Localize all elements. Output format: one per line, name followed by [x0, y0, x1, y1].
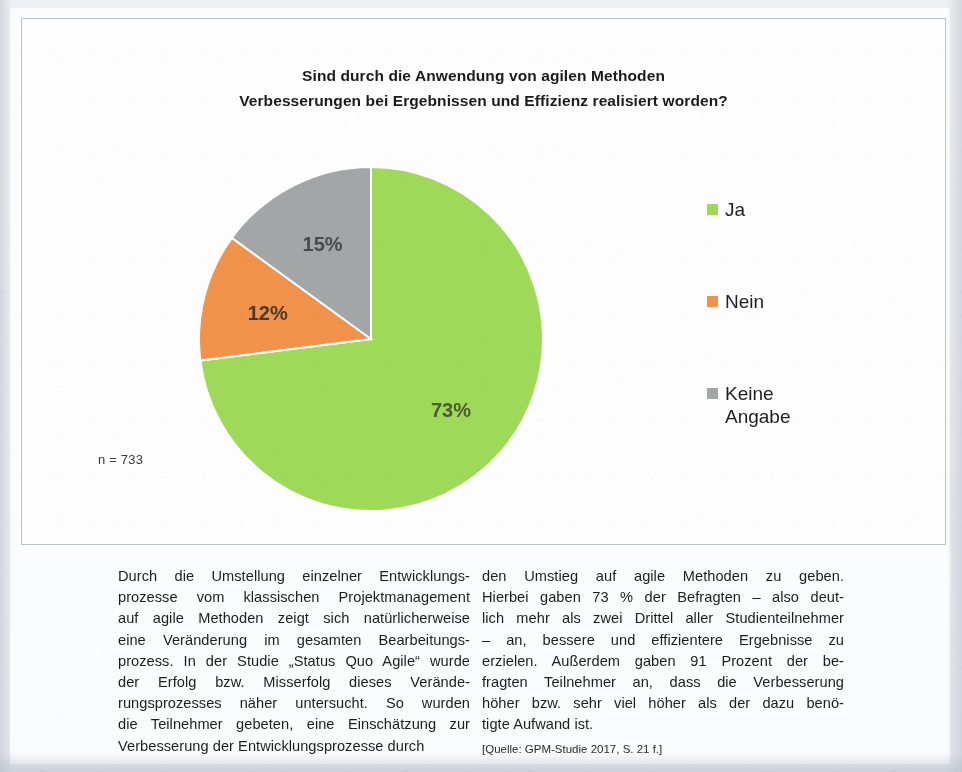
pie-data-label-nein: 12%: [248, 302, 288, 324]
legend-item-keine-angabe[interactable]: Keine Angabe: [707, 382, 791, 428]
body-line: die Teilnehmer gebeten, eine Einschätzun…: [118, 714, 470, 735]
chart-title-line-1: Sind durch die Anwendung von agilen Meth…: [21, 63, 946, 88]
body-column-right: den Umstieg auf agile Methoden zu geben.…: [482, 566, 844, 756]
pie-data-label-keine-angabe: 15%: [303, 233, 343, 255]
legend-swatch-ja-icon: [707, 204, 718, 215]
pie-chart: 73%12%15%: [196, 164, 546, 514]
pie-data-label-ja: 73%: [431, 399, 471, 421]
legend-label-keine-angabe: Keine Angabe: [725, 382, 791, 428]
body-line: höher bzw. sehr viel höher als der dazu …: [482, 693, 844, 714]
body-paragraph-right: den Umstieg auf agile Methoden zu geben.…: [482, 566, 844, 736]
body-line: erzielen. Außerdem gaben 91 Prozent der …: [482, 651, 844, 672]
body-line: prozesse vom klassischen Projektmanageme…: [118, 587, 470, 608]
body-line: lich mehr als zwei Drittel aller Studien…: [482, 608, 844, 629]
pie-chart-svg: 73%12%15%: [196, 164, 546, 514]
source-citation: [Quelle: GPM-Studie 2017, S. 21 f.]: [482, 742, 844, 756]
body-paragraph-left: Durch die Umstellung einzelner Entwicklu…: [118, 566, 470, 757]
legend-label-ja: Ja: [725, 198, 745, 221]
paper-sheet: Sind durch die Anwendung von agilen Meth…: [10, 8, 950, 764]
body-line: Durch die Umstellung einzelner Entwicklu…: [118, 566, 470, 587]
legend-item-nein[interactable]: Nein: [707, 290, 764, 313]
legend-swatch-keine-angabe-icon: [707, 388, 718, 399]
body-line: der Erfolg bzw. Misserfolg dieses Veränd…: [118, 672, 470, 693]
body-line: Verbesserung der Entwicklungsprozesse du…: [118, 736, 470, 757]
body-line: auf agile Methoden zeigt sich natürliche…: [118, 608, 470, 629]
body-line: rungsprozesses näher untersucht. So wurd…: [118, 693, 470, 714]
body-text: Durch die Umstellung einzelner Entwicklu…: [10, 566, 950, 762]
body-line: – an, bessere und effizientere Ergebniss…: [482, 630, 844, 651]
body-column-left: Durch die Umstellung einzelner Entwicklu…: [118, 566, 470, 757]
body-line: fragten Teilnehmer an, dass die Verbesse…: [482, 672, 844, 693]
body-line: eine Veränderung im gesamten Bearbeitung…: [118, 630, 470, 651]
legend-item-ja[interactable]: Ja: [707, 198, 745, 221]
chart-title-line-2: Verbesserungen bei Ergebnissen und Effiz…: [21, 88, 946, 113]
body-line: tigte Aufwand ist.: [482, 714, 844, 735]
body-line: prozess. In der Studie „Status Quo Agile…: [118, 651, 470, 672]
body-line: den Umstieg auf agile Methoden zu geben.: [482, 566, 844, 587]
chart-title: Sind durch die Anwendung von agilen Meth…: [21, 63, 946, 113]
body-line: Hierbei gaben 73 % der Befragten – also …: [482, 587, 844, 608]
sample-size-note: n = 733: [98, 452, 143, 467]
legend-swatch-nein-icon: [707, 296, 718, 307]
legend-label-nein: Nein: [725, 290, 764, 313]
pie-slice-group: [199, 167, 543, 511]
scanned-page: Sind durch die Anwendung von agilen Meth…: [0, 0, 962, 772]
